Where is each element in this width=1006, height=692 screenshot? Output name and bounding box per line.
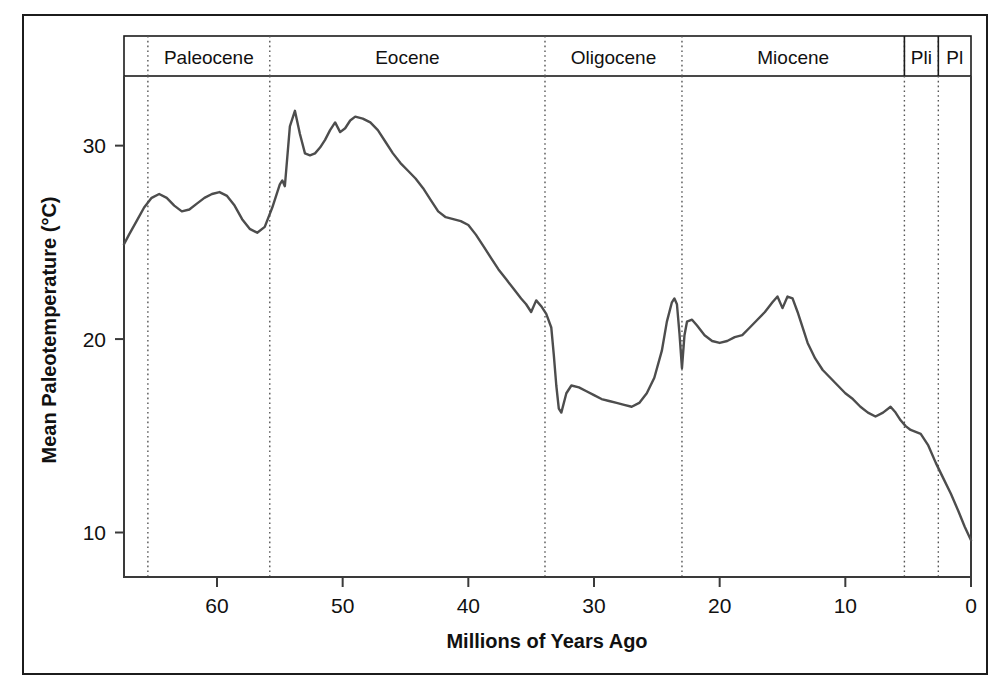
x-tick-label-10: 10 xyxy=(834,594,857,617)
epoch-band-group: PaleoceneEoceneOligoceneMiocenePliPl xyxy=(124,36,971,76)
x-tick-label-50: 50 xyxy=(331,594,354,617)
x-tick-label-0: 0 xyxy=(965,594,977,617)
epoch-label-oligocene: Oligocene xyxy=(571,47,657,68)
epoch-label-eocene: Eocene xyxy=(375,47,439,68)
y-tick-label-20: 20 xyxy=(83,328,106,351)
x-tick-label-60: 60 xyxy=(205,594,228,617)
y-tick-label-30: 30 xyxy=(83,134,106,157)
paleotemperature-chart: PaleoceneEoceneOligoceneMiocenePliPl 302… xyxy=(0,0,1006,692)
epoch-band-labels: PaleoceneEoceneOligoceneMiocenePliPl xyxy=(164,47,963,68)
figure-root: PaleoceneEoceneOligoceneMiocenePliPl 302… xyxy=(0,0,1006,692)
x-axis-ticks xyxy=(217,577,971,587)
plot-frame-line xyxy=(124,76,971,577)
y-axis-tick-labels: 302010 xyxy=(83,134,106,544)
epoch-label-paleocene: Paleocene xyxy=(164,47,254,68)
x-axis-title: Millions of Years Ago xyxy=(446,630,647,652)
epoch-label-miocene: Miocene xyxy=(757,47,829,68)
y-axis-title: Mean Paleotemperature (°C) xyxy=(38,197,60,464)
x-axis-tick-labels: 6050403020100 xyxy=(205,594,977,617)
epoch-boundary-guides xyxy=(148,76,938,577)
plot-axes xyxy=(115,76,971,587)
epoch-label-pl: Pl xyxy=(946,47,963,68)
data-series-group xyxy=(124,111,971,540)
y-axis-ticks xyxy=(115,146,124,533)
paleotemperature-curve xyxy=(124,111,971,540)
y-tick-label-10: 10 xyxy=(83,521,106,544)
x-tick-label-30: 30 xyxy=(582,594,605,617)
x-tick-label-20: 20 xyxy=(708,594,731,617)
x-tick-label-40: 40 xyxy=(457,594,480,617)
epoch-label-pli: Pli xyxy=(911,47,932,68)
